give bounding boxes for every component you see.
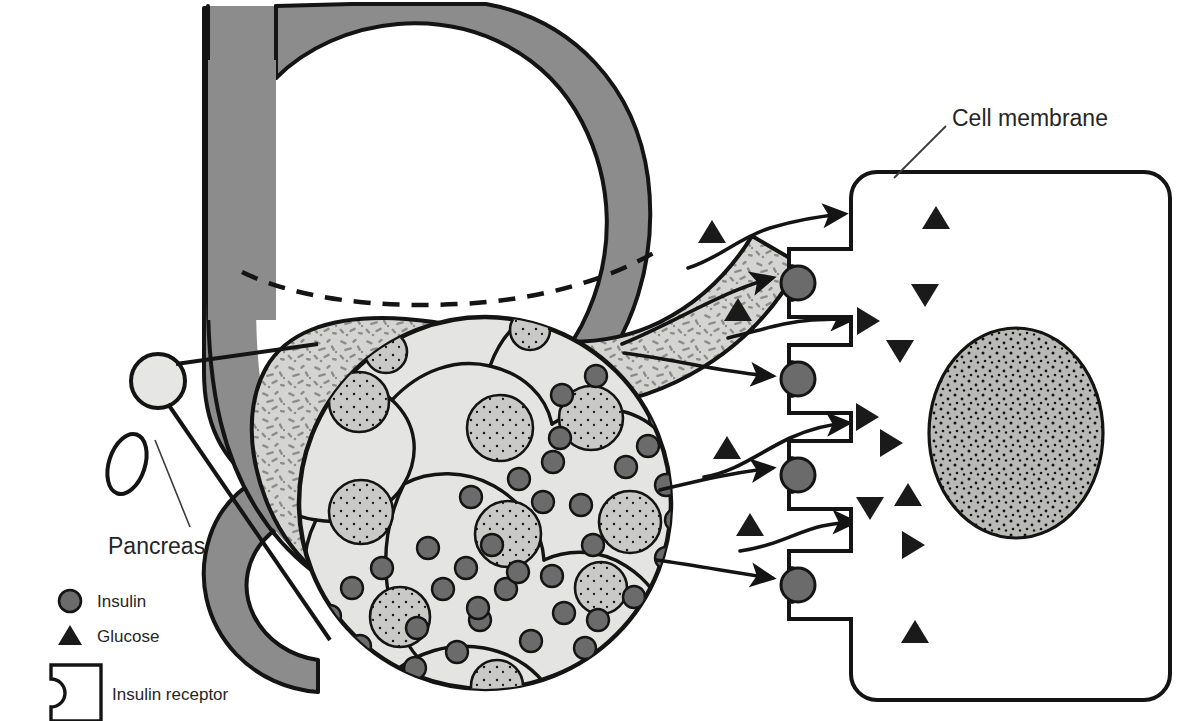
legend-receptor-icon xyxy=(51,665,101,721)
legend-insulin-label: Insulin xyxy=(97,592,146,611)
cell-membrane-label-group: Cell membrane xyxy=(894,105,1108,178)
insulin-receptor-1 xyxy=(781,249,853,317)
bound-insulin-3 xyxy=(781,458,815,492)
legend-glucose-label: Glucose xyxy=(97,627,159,646)
insulin-diagram-svg: Pancreas xyxy=(0,0,1193,721)
bound-insulin-2 xyxy=(781,362,815,396)
bound-insulin-4 xyxy=(781,568,815,602)
cell-membrane-label: Cell membrane xyxy=(952,105,1108,131)
insulin-receptor-3 xyxy=(781,441,853,509)
legend: Insulin Glucose Insulin receptor xyxy=(51,590,229,721)
legend-insulin-icon xyxy=(59,590,81,612)
insulin-receptor-4 xyxy=(781,551,853,619)
insulin-arrow-3 xyxy=(660,468,772,490)
duodenum xyxy=(100,429,153,499)
legend-glucose-icon xyxy=(58,625,82,645)
bound-insulin-1 xyxy=(781,266,815,300)
pancreas-label: Pancreas xyxy=(108,533,205,559)
glucose-outside-4 xyxy=(736,513,764,536)
glucose-outside-1 xyxy=(698,220,726,243)
insulin-receptor-2 xyxy=(781,345,853,413)
insulin-receptors xyxy=(781,249,853,619)
legend-receptor-label: Insulin receptor xyxy=(112,685,229,704)
insulin-arrow-4 xyxy=(656,560,772,578)
glucose-outside-3 xyxy=(713,436,741,459)
target-cell xyxy=(851,172,1170,700)
cell-nucleus xyxy=(929,328,1103,538)
diagram-canvas: Pancreas xyxy=(0,0,1193,721)
